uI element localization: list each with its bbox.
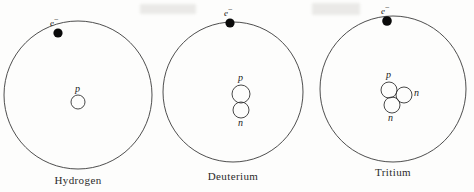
electron-label: e− [381,4,390,16]
electron-charge-sign: − [385,3,390,12]
neutron-label: n [414,88,419,98]
electron-dot [382,16,392,26]
neutron-label: n [388,113,393,123]
isotope-diagram-figure: e− p Hydrogen e− p n Deuterium e− p n n … [0,0,474,192]
proton-circle [381,82,397,98]
tritium-orbit-svg [0,0,474,192]
neutron-circle [384,97,400,113]
atom-caption-tritium: Tritium [343,166,443,178]
electron-orbit-circle [320,16,466,162]
proton-label: p [386,70,391,80]
